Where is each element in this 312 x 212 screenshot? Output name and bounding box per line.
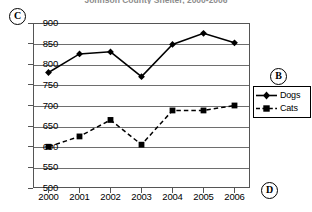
data-point-dogs [200,30,207,37]
data-point-cats [170,108,176,114]
data-point-cats [108,117,114,123]
data-point-dogs [45,69,52,76]
chart-container: Johnson County Shelter, 2000-2006 C B D … [0,0,312,212]
x-axis-tick [234,188,235,193]
legend-item-cats: Cats [256,102,310,115]
chart-title: Johnson County Shelter, 2000-2006 [0,0,312,4]
data-point-dogs [231,39,238,46]
data-point-cats [77,134,83,140]
legend-key-dogs [256,90,277,101]
annotation-marker-d: D [261,182,278,199]
series-line-dogs [49,33,235,76]
chart-legend: Dogs Cats [253,86,311,118]
x-axis-tick [79,188,80,193]
series-line-cats [49,106,235,147]
x-axis-tick [110,188,111,193]
x-axis-tick [203,188,204,193]
data-point-cats [232,103,238,109]
x-axis-tick [141,188,142,193]
legend-label-cats: Cats [280,103,298,114]
annotation-marker-b: B [270,68,287,85]
legend-label-dogs: Dogs [280,90,300,101]
annotation-marker-c: C [9,8,26,25]
data-point-dogs [76,51,83,58]
data-point-cats [139,142,145,148]
x-axis-tick [48,188,49,193]
legend-key-cats [256,103,277,114]
legend-item-dogs: Dogs [256,89,310,102]
data-series-layer [33,23,250,188]
data-point-cats [46,144,52,150]
data-point-cats [201,108,207,114]
x-axis-tick [172,188,173,193]
